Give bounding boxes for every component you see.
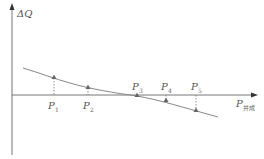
svg-text:P: P: [82, 100, 90, 111]
point-label-p2: P 2: [82, 100, 94, 113]
svg-text:P: P: [160, 81, 168, 92]
svg-text:2: 2: [90, 106, 94, 113]
delta-q-diagram: ΔQ P 1 P 2 P 3 P 4 P 5 P 并成: [0, 0, 264, 159]
point-label-p3: P 3: [131, 81, 143, 94]
svg-text:4: 4: [168, 87, 172, 94]
svg-text:P: P: [190, 81, 198, 92]
point-p4-marker-icon: [164, 98, 169, 103]
svg-text:3: 3: [139, 87, 143, 94]
y-axis-arrow-icon: [10, 3, 15, 10]
svg-text:P: P: [47, 100, 55, 111]
svg-text:1: 1: [55, 106, 59, 113]
x-axis-arrow-icon: [251, 93, 258, 98]
svg-text:P: P: [235, 98, 243, 109]
y-axis: [10, 3, 15, 155]
y-axis-label: ΔQ: [16, 8, 32, 19]
point-p1-marker-icon: [52, 75, 57, 80]
point-label-p1: P 1: [47, 100, 59, 113]
point-label-p4: P 4: [160, 81, 172, 94]
point-label-p5: P 5: [190, 81, 202, 94]
point-p5-marker-icon: [194, 108, 199, 113]
x-axis-label: P 并成: [235, 98, 255, 112]
svg-text:并成: 并成: [243, 104, 255, 112]
svg-text:P: P: [131, 81, 139, 92]
svg-text:5: 5: [198, 87, 202, 94]
